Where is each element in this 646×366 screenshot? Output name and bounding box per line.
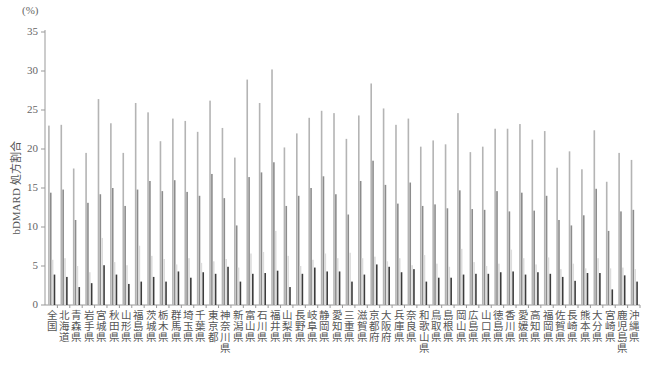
bar <box>60 125 62 305</box>
bar <box>174 180 176 305</box>
bar <box>422 206 424 305</box>
bar <box>523 258 525 305</box>
bar <box>544 131 546 305</box>
bar <box>85 153 87 305</box>
bar <box>137 190 139 305</box>
bar <box>507 129 509 305</box>
category-label: 広島県 <box>467 310 479 343</box>
bar <box>364 275 366 305</box>
bar <box>250 254 252 305</box>
category-label: 静岡県 <box>318 310 330 343</box>
bar <box>300 266 302 305</box>
bar <box>372 161 374 305</box>
bar <box>572 264 574 305</box>
category-label: 神奈川県 <box>219 310 231 354</box>
bar <box>569 151 571 305</box>
bar <box>89 272 91 305</box>
bar <box>147 112 149 305</box>
bar <box>622 268 624 305</box>
bar <box>461 249 463 305</box>
bar <box>351 282 353 305</box>
category-label: 大分県 <box>591 310 603 343</box>
bar <box>128 284 130 305</box>
bar <box>259 103 261 305</box>
category-label: 千葉県 <box>194 310 206 343</box>
bar <box>556 168 558 305</box>
bar <box>339 271 341 305</box>
bar <box>383 108 385 305</box>
bar <box>91 283 93 305</box>
bar <box>78 287 80 305</box>
bar <box>438 278 440 305</box>
bar <box>482 147 484 305</box>
bar <box>252 274 254 305</box>
category-label: 愛知県 <box>330 310 342 343</box>
bar <box>199 196 201 305</box>
bar <box>197 132 199 305</box>
bar <box>471 209 473 305</box>
y-tick-label: 15 <box>18 181 38 193</box>
bar <box>411 265 413 305</box>
bar <box>620 211 622 305</box>
bar <box>594 130 596 305</box>
bar <box>273 162 275 305</box>
bar <box>302 274 304 305</box>
bar <box>139 246 141 305</box>
bar <box>608 231 610 305</box>
bar <box>238 268 240 305</box>
bar <box>599 273 601 305</box>
bar <box>52 260 54 305</box>
bar <box>190 278 192 305</box>
bar <box>165 282 167 305</box>
bar <box>494 129 496 305</box>
bar <box>277 271 279 305</box>
bar <box>101 238 103 305</box>
bar <box>162 191 164 305</box>
category-label: 宮崎県 <box>603 310 615 343</box>
category-label: 茨城県 <box>144 310 156 343</box>
category-label: 岡山県 <box>454 310 466 343</box>
bar-chart: (%) bDMARD 処方割合 05101520253035 全国北海道青森県岩… <box>0 0 646 366</box>
category-label: 鳥取県 <box>429 310 441 343</box>
bar <box>326 271 328 305</box>
bar <box>184 121 186 305</box>
bar <box>160 141 162 305</box>
bar <box>202 272 204 305</box>
category-label: 栃木県 <box>157 310 169 343</box>
bar <box>595 189 597 305</box>
bar <box>463 275 465 305</box>
bar <box>585 268 587 305</box>
bar <box>574 281 576 305</box>
category-label: 徳島県 <box>491 310 503 343</box>
bar <box>213 261 215 305</box>
bar <box>408 119 410 305</box>
category-label: 群馬県 <box>169 310 181 343</box>
bar <box>215 274 217 305</box>
category-label: 秋田県 <box>107 310 119 343</box>
bar <box>550 274 552 305</box>
category-label: 宮城県 <box>95 310 107 343</box>
bar <box>358 115 360 305</box>
bar <box>188 258 190 305</box>
bar <box>450 278 452 305</box>
category-label: 長崎県 <box>566 310 578 343</box>
bar <box>611 289 613 305</box>
bar <box>77 266 79 305</box>
bar <box>296 133 298 305</box>
bar <box>75 220 77 305</box>
bar <box>153 277 155 305</box>
bar <box>470 152 472 305</box>
category-label: 愛媛県 <box>516 310 528 343</box>
bar <box>434 204 436 305</box>
bar <box>66 277 68 305</box>
bar <box>110 123 112 305</box>
bar <box>314 268 316 305</box>
bar <box>426 282 428 305</box>
bar <box>225 259 227 305</box>
bar <box>521 193 523 305</box>
bar <box>488 274 490 305</box>
bar <box>64 258 66 305</box>
category-label: 大阪府 <box>380 310 392 343</box>
bar <box>87 203 89 305</box>
y-tick-label: 10 <box>18 220 38 232</box>
